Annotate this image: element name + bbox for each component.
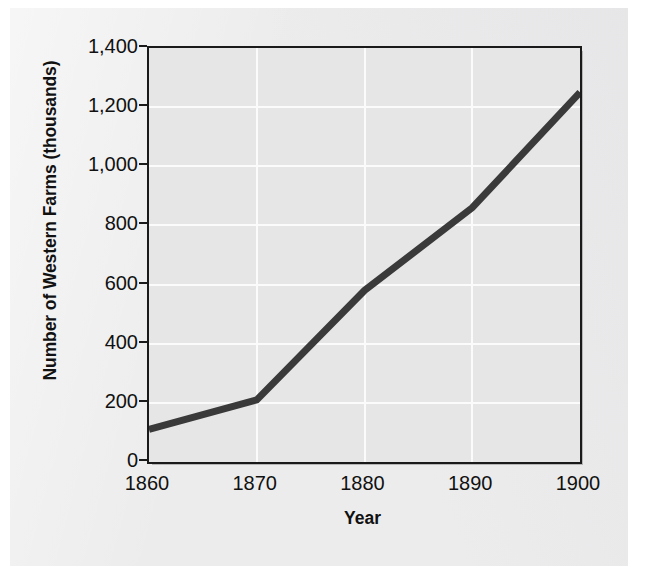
plot-area [147,46,582,464]
y-tick-label: 200 [38,389,138,412]
y-tick-label: 0 [38,449,138,472]
x-tick-label: 1860 [92,472,202,495]
y-tick-labels: 02004006008001,0001,2001,400 [30,46,138,460]
x-tick-label: 1890 [415,472,525,495]
y-tick-label: 1,400 [38,35,138,58]
data-series-line [149,48,580,462]
y-tick-label: 1,000 [38,153,138,176]
x-axis-title: Year [147,508,578,529]
y-tick-mark [139,104,147,106]
y-tick-label: 1,200 [38,94,138,117]
y-tick-mark [139,459,147,461]
x-tick-label: 1870 [200,472,310,495]
y-tick-mark [139,282,147,284]
plot-inner [149,48,580,462]
y-tick-mark [139,163,147,165]
y-tick-mark [139,45,147,47]
y-tick-mark [139,400,147,402]
y-tick-label: 800 [38,212,138,235]
y-tick-mark [139,222,147,224]
y-tick-mark [139,341,147,343]
y-tick-label: 400 [38,330,138,353]
y-tick-label: 600 [38,271,138,294]
chart-figure: Number of Western Farms (thousands) Year… [0,0,645,582]
x-tick-labels: 18601870188018901900 [0,472,645,502]
x-tick-label: 1900 [523,472,633,495]
x-tick-label: 1880 [308,472,418,495]
